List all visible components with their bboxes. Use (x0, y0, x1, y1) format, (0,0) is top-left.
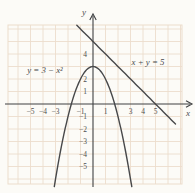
x-tick-label: −3 (52, 107, 60, 116)
y-tick-label: 2 (83, 75, 87, 84)
y-axis-label: y (81, 7, 86, 17)
x-axis-label: x (185, 108, 190, 118)
y-tick-label: 4 (83, 50, 87, 59)
x-tick-label: 5 (154, 107, 158, 116)
x-tick-label: 3 (129, 107, 133, 116)
y-tick-label: −4 (79, 150, 87, 159)
y-tick-label: −1 (79, 112, 87, 121)
y-tick-label: −2 (79, 125, 87, 134)
parabola-equation-label: y = 3 − x² (26, 65, 63, 75)
graph-canvas: xy−5−4−3−11345421−1−2−3−4−5y = 3 − x²x +… (0, 0, 195, 193)
x-tick-label: 4 (141, 107, 145, 116)
y-tick-label: −3 (79, 137, 87, 146)
y-tick-label: −5 (79, 162, 87, 171)
x-tick-label: 1 (104, 107, 108, 116)
y-tick-label: 1 (83, 87, 87, 96)
x-tick-label: −4 (39, 107, 47, 116)
line-equation-label: x + y = 5 (131, 57, 165, 67)
graph-figure: xy−5−4−3−11345421−1−2−3−4−5y = 3 − x²x +… (0, 0, 195, 193)
x-tick-label: −5 (27, 107, 35, 116)
